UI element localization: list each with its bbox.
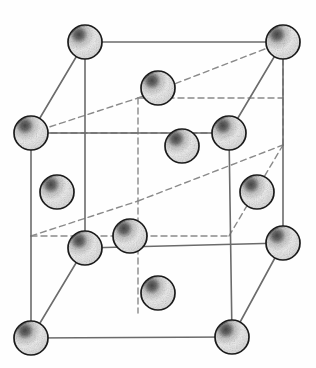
lattice-diagram-canvas — [0, 0, 316, 368]
atom-corner-front-top-left — [14, 116, 48, 150]
atom-corner-back-bottom-right — [266, 226, 300, 260]
atom-face-right — [240, 175, 274, 209]
atom-face-front — [113, 219, 147, 253]
atom-face-back — [212, 116, 246, 150]
atom-corner-back-top-left — [68, 25, 102, 59]
edge-front-bottom — [31, 337, 232, 338]
atom-corner-front-bottom-right — [215, 320, 249, 354]
atom-corner-front-bottom-left — [14, 321, 48, 355]
atom-corner-back-top-right — [266, 25, 300, 59]
fcc-unit-cell-figure — [0, 0, 316, 368]
atom-face-left — [40, 175, 74, 209]
atoms-group — [14, 25, 300, 355]
atom-face-right-upper — [165, 129, 199, 163]
atom-corner-back-bottom-left — [68, 231, 102, 265]
atom-face-bottom — [141, 276, 175, 310]
atom-face-top — [141, 71, 175, 105]
